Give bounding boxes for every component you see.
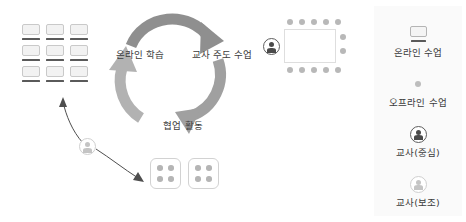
person-body — [414, 135, 423, 140]
legend-icon-slot — [374, 124, 462, 144]
legend-label: 교사(중심) — [374, 148, 462, 158]
grid-cell — [70, 45, 88, 61]
grid-bar — [22, 59, 40, 61]
seat-dot — [206, 176, 212, 182]
connector-arrows — [28, 95, 178, 200]
legend-icon-slot — [374, 174, 462, 194]
classroom-table-outline — [284, 29, 336, 63]
legend-item-online-class: 온라인 수업 — [374, 24, 462, 58]
seat-dot — [287, 19, 293, 25]
grid-cell — [22, 66, 40, 82]
monitor-screen — [410, 26, 427, 37]
grid-bar — [70, 59, 88, 61]
seat-dot — [340, 34, 346, 40]
online-class-grid-icon — [22, 24, 88, 90]
legend-label: 오프라인 수업 — [374, 98, 462, 108]
grid-screen — [22, 24, 40, 35]
seat-dot — [195, 165, 201, 171]
group-table — [188, 158, 219, 189]
legend-panel: 온라인 수업 오프라인 수업 교사(중심) — [374, 6, 462, 216]
teacher-assistant-icon — [79, 138, 96, 155]
monitor-icon — [410, 26, 427, 42]
offline-dot-icon — [415, 81, 421, 87]
seat-dot — [311, 19, 317, 25]
grid-bar — [22, 38, 40, 40]
connector-arrow-to-tables — [96, 149, 144, 182]
grid-screen — [46, 24, 64, 35]
grid-screen — [70, 24, 88, 35]
classroom-seating-icon — [258, 14, 350, 92]
grid-screen — [70, 66, 88, 77]
person-body — [414, 185, 423, 190]
teacher-assistant-icon — [410, 176, 427, 193]
grid-cell — [46, 24, 64, 40]
connector-arrow-to-grid — [59, 97, 83, 143]
grid-screen — [22, 66, 40, 77]
legend-icon-slot — [374, 74, 462, 94]
legend-icon-slot — [374, 24, 462, 44]
grid-bar — [46, 80, 64, 82]
grid-row — [22, 24, 88, 40]
seat-dot — [299, 67, 305, 73]
grid-row — [22, 66, 88, 82]
teacher-central-icon — [263, 38, 280, 55]
person-body — [267, 48, 276, 53]
legend-label: 교사(보조) — [374, 198, 462, 208]
monitor-stand — [411, 40, 426, 42]
grid-cell — [70, 66, 88, 82]
grid-bar — [70, 38, 88, 40]
seat-dot — [335, 67, 341, 73]
grid-bar — [46, 59, 64, 61]
person-head — [85, 142, 90, 147]
legend-item-teacher-assistant: 교사(보조) — [374, 174, 462, 208]
seat-dot — [323, 67, 329, 73]
person-head — [269, 42, 274, 47]
grid-bar — [70, 80, 88, 82]
grid-cell — [22, 24, 40, 40]
cycle-label-teacher-led-class: 교사 주도 수업 — [192, 50, 253, 60]
legend-item-teacher-central: 교사(중심) — [374, 124, 462, 158]
grid-cell — [46, 45, 64, 61]
seat-dot — [311, 67, 317, 73]
grid-screen — [22, 45, 40, 56]
legend-item-offline-class: 오프라인 수업 — [374, 74, 462, 108]
person-body — [83, 148, 92, 153]
seat-dot — [340, 48, 346, 54]
grid-cell — [22, 45, 40, 61]
legend-label: 온라인 수업 — [374, 48, 462, 58]
seat-dot — [299, 19, 305, 25]
seat-dot — [323, 19, 329, 25]
seat-dot — [287, 67, 293, 73]
diagram-canvas: 온라인 학습 교사 주도 수업 협업 활동 — [0, 0, 466, 222]
grid-screen — [46, 66, 64, 77]
grid-bar — [22, 80, 40, 82]
cycle-label-online-learning: 온라인 학습 — [116, 50, 165, 60]
grid-screen — [70, 45, 88, 56]
grid-screen — [46, 45, 64, 56]
seat-dot — [206, 165, 212, 171]
grid-row — [22, 45, 88, 61]
teacher-central-icon — [410, 126, 427, 143]
person-head — [416, 130, 421, 135]
seat-dot — [335, 19, 341, 25]
grid-cell — [70, 24, 88, 40]
grid-bar — [46, 38, 64, 40]
seat-dot — [195, 176, 201, 182]
person-head — [416, 180, 421, 185]
grid-cell — [46, 66, 64, 82]
